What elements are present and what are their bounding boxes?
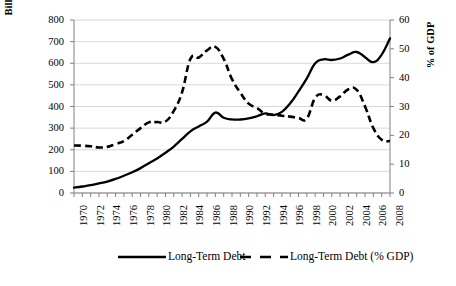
legend-item-long-term-debt-pct-gdp: Long-Term Debt (% GDP) <box>290 250 413 263</box>
series-line-1 <box>74 46 390 147</box>
series-line-0 <box>74 38 390 187</box>
chart-figure: Billions US Current Dollars % of GDP 800… <box>0 0 456 286</box>
gridlines <box>74 20 390 193</box>
legend-item-long-term-debt: Long-Term Debt <box>168 250 245 263</box>
plot-area <box>0 0 456 286</box>
axis-tickmarks <box>70 20 394 197</box>
data-series-layer <box>74 38 390 187</box>
